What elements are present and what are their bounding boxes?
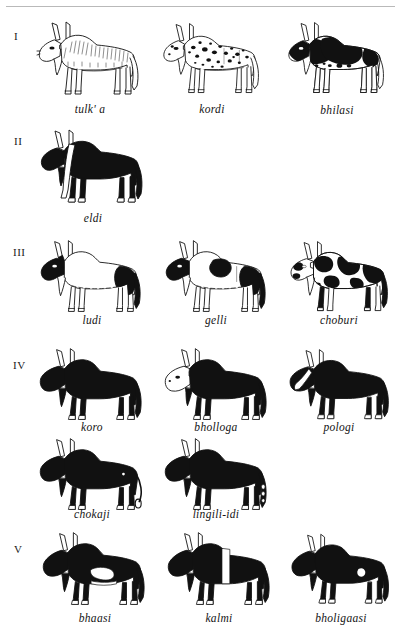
animal-caption-ludi: ludi [33, 314, 151, 326]
animal-figure-bhaasi [36, 531, 154, 611]
animal-caption-chokaji: chokaji [33, 508, 151, 520]
cattle-pattern-plate: I [0, 0, 401, 644]
animal-figure-choburi [283, 238, 398, 318]
animal-figure-tulka [30, 18, 150, 100]
animal-caption-koro: koro [33, 421, 151, 433]
animal-caption-choburi: choburi [281, 314, 397, 326]
animal-caption-bhilasi: bhilasi [280, 104, 394, 116]
top-divider-rule [6, 6, 395, 7]
animal-caption-tulka: tulk' a [30, 103, 150, 115]
animal-figure-kalmi [161, 531, 279, 611]
animal-figure-pologi [283, 348, 398, 426]
animal-figure-lingili-idi [158, 438, 276, 516]
animal-caption-lingili-idi: lingili-idi [157, 508, 275, 520]
animal-caption-kordi: kordi [153, 103, 271, 115]
animal-figure-kordi [155, 18, 270, 100]
animal-figure-ludi [33, 238, 151, 318]
animal-figure-bhilasi [280, 16, 395, 100]
animal-figure-eldi [33, 126, 153, 208]
animal-figure-bholloga [158, 348, 276, 426]
animal-caption-eldi: eldi [33, 212, 153, 224]
animal-figure-chokaji [33, 438, 151, 516]
animal-caption-bholloga: bholloga [157, 421, 275, 433]
group-numeral-2: II [14, 135, 22, 147]
group-numeral-1: I [14, 30, 18, 42]
group-numeral-3: III [13, 246, 26, 258]
animal-caption-pologi: pologi [281, 421, 397, 433]
group-numeral-4: IV [13, 359, 26, 371]
animal-caption-bhaasi: bhaasi [36, 612, 154, 624]
group-numeral-5: V [14, 543, 22, 555]
animal-caption-bholigaasi: bholigaasi [283, 612, 399, 624]
animal-caption-gelli: gelli [157, 314, 275, 326]
animal-caption-kalmi: kalmi [160, 612, 278, 624]
animal-figure-gelli [158, 238, 276, 318]
animal-figure-bholigaasi [285, 531, 398, 611]
animal-figure-koro [33, 348, 151, 426]
